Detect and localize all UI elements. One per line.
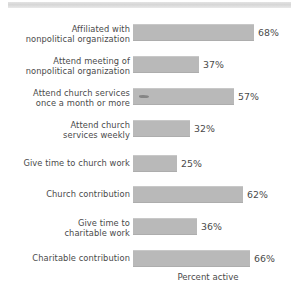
category-label: Affiliated with nonpolitical organizatio… xyxy=(2,24,130,45)
bar xyxy=(133,186,243,203)
bar xyxy=(133,120,190,137)
value-label: 36% xyxy=(201,220,222,233)
bar xyxy=(133,24,254,41)
x-axis-title: Percent active xyxy=(133,272,283,282)
value-label: 68% xyxy=(258,26,279,39)
value-label: 37% xyxy=(203,58,224,71)
value-label: 57% xyxy=(238,90,259,103)
category-label: Give time to charitable work xyxy=(2,218,130,239)
category-label: Church contribution xyxy=(2,189,130,199)
chart-row: Charitable contribution 66% xyxy=(0,250,300,274)
value-label: 32% xyxy=(194,122,215,135)
value-label: 66% xyxy=(254,252,275,265)
bar xyxy=(133,88,234,105)
bar xyxy=(133,250,250,267)
chart-row: Give time to charitable work 36% xyxy=(0,218,300,242)
bar xyxy=(133,56,199,73)
value-label: 62% xyxy=(247,188,268,201)
category-label: Give time to church work xyxy=(2,158,130,168)
category-label: Attend meeting of nonpolitical organizat… xyxy=(2,56,130,77)
value-label: 25% xyxy=(181,157,202,170)
category-label: Attend church services once a month or m… xyxy=(2,88,130,109)
chart-row: Church contribution 62% xyxy=(0,186,300,210)
bar xyxy=(133,218,197,235)
chart-row: Give time to church work 25% xyxy=(0,155,300,179)
chart-row: Attend meeting of nonpolitical organizat… xyxy=(0,56,300,80)
bar xyxy=(133,155,177,172)
chart-row: Affiliated with nonpolitical organizatio… xyxy=(0,24,300,48)
category-label: Attend church services weekly xyxy=(2,120,130,141)
chart-row: Attend church services once a month or m… xyxy=(0,88,300,112)
bar-chart: Affiliated with nonpolitical organizatio… xyxy=(0,0,300,302)
category-label: Charitable contribution xyxy=(2,253,130,263)
scan-smudge xyxy=(139,95,149,98)
chart-row: Attend church services weekly 32% xyxy=(0,120,300,144)
